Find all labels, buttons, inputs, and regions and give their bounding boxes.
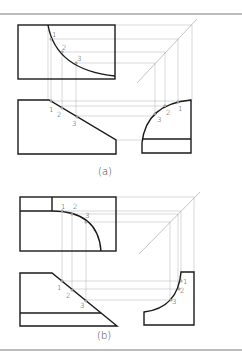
svg-text:1: 1 bbox=[57, 284, 61, 292]
side-view-a bbox=[142, 100, 191, 153]
caption-b: (b) bbox=[97, 330, 111, 341]
svg-text:1: 1 bbox=[178, 105, 182, 113]
projection-diagram: 1 2 3 1 2 3 1 2 3 (a) bbox=[0, 0, 242, 360]
top-view-b bbox=[20, 197, 116, 251]
labels-b: 1 2 3 1 2 3 1 2 3 bbox=[57, 203, 187, 310]
panel-b: 1 2 3 1 2 3 1 2 3 (b) bbox=[20, 192, 200, 341]
caption-a: (a) bbox=[98, 166, 112, 177]
svg-text:1: 1 bbox=[49, 106, 53, 114]
svg-text:2: 2 bbox=[66, 292, 70, 300]
svg-text:3: 3 bbox=[172, 298, 176, 306]
points-b bbox=[61, 210, 182, 302]
svg-text:3: 3 bbox=[85, 212, 89, 220]
svg-text:1: 1 bbox=[61, 203, 65, 211]
svg-text:2: 2 bbox=[166, 109, 170, 117]
svg-text:2: 2 bbox=[180, 287, 184, 295]
svg-text:3: 3 bbox=[157, 116, 161, 124]
front-view-a bbox=[18, 100, 116, 154]
panel-a: 1 2 3 1 2 3 1 2 3 (a) bbox=[18, 19, 197, 177]
svg-text:2: 2 bbox=[73, 203, 77, 211]
mitre-line-a bbox=[137, 19, 197, 83]
svg-text:2: 2 bbox=[62, 44, 66, 52]
svg-text:2: 2 bbox=[57, 111, 61, 119]
projection-lines-a bbox=[48, 25, 192, 140]
svg-text:1: 1 bbox=[183, 278, 187, 286]
svg-text:1: 1 bbox=[52, 31, 56, 39]
svg-text:3: 3 bbox=[80, 302, 84, 310]
projection-lines-b bbox=[62, 197, 194, 301]
mitre-line-b bbox=[139, 192, 200, 254]
svg-text:3: 3 bbox=[72, 120, 76, 128]
svg-text:3: 3 bbox=[77, 55, 81, 63]
